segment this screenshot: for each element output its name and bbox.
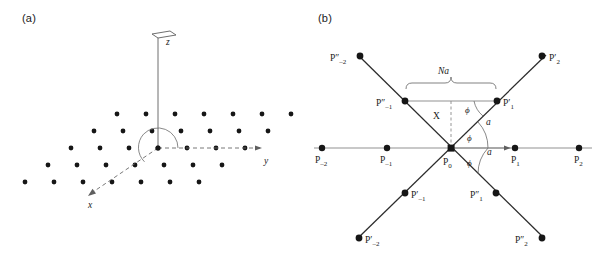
label-Ppp-1: P″–1 [376, 98, 393, 111]
figure-root: (a) [0, 0, 604, 257]
label-Ppp2: P″2 [515, 235, 528, 248]
panel-b-diagram: Na X ϕ ϕ ϕ a a [302, 0, 604, 257]
angle-phi-middle: ϕ [467, 133, 472, 143]
point-P2 [576, 145, 582, 151]
point-Ppp-1 [402, 98, 409, 105]
point-Ppp-2 [357, 53, 364, 60]
label-Pp-1: P′–1 [411, 190, 426, 203]
label-P1: P1 [511, 155, 520, 168]
panel-a: (a) [0, 0, 302, 257]
panel-a-diagram: z y x [0, 0, 302, 257]
point-P-1 [384, 145, 390, 151]
origin-point [155, 145, 160, 150]
label-Ppp1: P″1 [470, 190, 483, 203]
x-axis-label: x [87, 200, 93, 210]
point-P0 [448, 145, 455, 152]
label-Pp1: P′1 [503, 98, 514, 111]
label-Pp-2: P′–2 [365, 235, 380, 248]
point-Ppp1 [493, 190, 500, 197]
na-span-label: Na [437, 66, 449, 76]
label-P2: P2 [574, 155, 583, 168]
point-Pp2 [539, 53, 546, 60]
angle-phi-upper: ϕ [465, 105, 470, 115]
na-brace [406, 77, 496, 89]
x-axis [88, 148, 158, 196]
panel-b: (b) Na X [302, 0, 604, 257]
spacing-label-horizontal: a [487, 147, 492, 157]
point-Pp-2 [356, 235, 363, 242]
spacing-arrow [452, 146, 511, 151]
point-P-2 [319, 145, 325, 151]
label-Pp2: P′2 [549, 53, 560, 66]
point-Pp-1 [402, 190, 409, 197]
point-Ppp2 [539, 235, 546, 242]
label-P-1: P–1 [380, 155, 393, 168]
z-axis [152, 31, 176, 148]
label-P0: P0 [443, 157, 452, 170]
label-P-2: P–2 [315, 155, 328, 168]
y-axis-label: y [263, 156, 269, 166]
point-P1 [512, 145, 518, 151]
z-axis-label: z [165, 37, 170, 47]
spacing-label-prime: a [486, 117, 491, 127]
angle-phi-lower: ϕ [467, 158, 472, 168]
projection-label: X [433, 111, 440, 121]
point-Pp1 [494, 98, 501, 105]
label-Ppp-2: P″–2 [330, 53, 347, 66]
angle-arcs [474, 101, 488, 174]
